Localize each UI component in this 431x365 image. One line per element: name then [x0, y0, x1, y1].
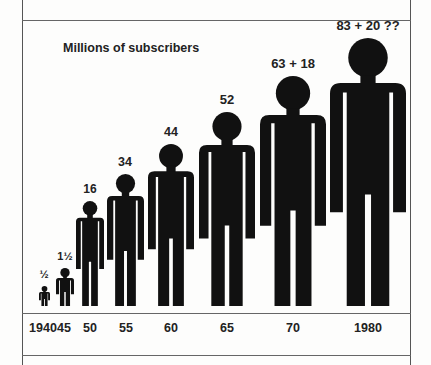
value-label-55: 34: [118, 155, 132, 169]
person-icon: [107, 174, 144, 306]
x-tick-label: 55: [119, 321, 133, 335]
value-label-1980: 83 + 20 ??: [336, 18, 399, 33]
value-label-45: 1½: [57, 250, 72, 262]
chart-title: Millions of subscribers: [63, 41, 199, 55]
x-tick-label: 70: [286, 321, 300, 335]
person-figure-70: [260, 76, 326, 306]
person-icon: [39, 286, 50, 306]
frame-left-border: [22, 0, 23, 365]
person-figure-45: [56, 268, 74, 306]
x-tick-label: 50: [83, 321, 97, 335]
value-label-1940: ½: [39, 268, 48, 280]
person-icon: [56, 268, 74, 306]
x-tick-label: 45: [57, 321, 71, 335]
baseline-rule: [22, 313, 411, 314]
person-icon: [76, 201, 104, 306]
x-tick-label: 65: [220, 321, 234, 335]
value-label-50: 16: [83, 182, 96, 196]
value-label-60: 44: [164, 125, 178, 139]
person-figure-50: [76, 201, 104, 306]
bottom-rule: [22, 355, 411, 356]
value-label-70: 63 + 18: [271, 56, 315, 71]
person-figure-1940: [39, 286, 50, 306]
person-figure-1980: [330, 38, 406, 306]
person-icon: [148, 144, 194, 306]
person-icon: [260, 76, 326, 306]
x-tick-label: 1980: [354, 321, 382, 335]
person-figure-55: [107, 174, 144, 306]
x-tick-label: 1940: [29, 321, 57, 335]
person-icon: [330, 38, 406, 306]
value-label-65: 52: [220, 92, 234, 107]
frame-right-border: [410, 0, 411, 365]
person-icon: [199, 112, 255, 306]
person-figure-65: [199, 112, 255, 306]
x-tick-label: 60: [164, 321, 178, 335]
person-figure-60: [148, 144, 194, 306]
